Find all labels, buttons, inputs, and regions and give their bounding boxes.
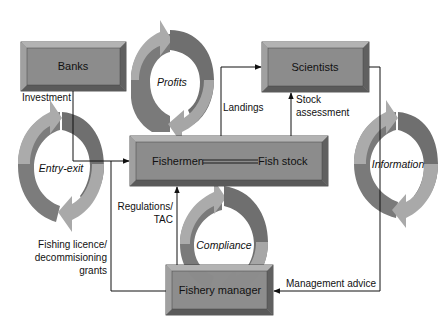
- edge-label-management-advice: Management advice: [286, 278, 376, 289]
- node-label-banks: Banks: [58, 60, 89, 72]
- edge-label-grants: grants: [79, 265, 107, 276]
- node-label-fishery-manager: Fishery manager: [179, 284, 262, 296]
- cycle-label-entry-exit: Entry-exit: [39, 162, 84, 174]
- node-fishery-manager: Fishery manager: [166, 265, 273, 315]
- edge-label-decommisioning: decommisioning: [35, 252, 107, 263]
- fishery-diagram: Profits Entry-exit Information Complianc…: [0, 0, 438, 331]
- node-label-fish-stock: Fish stock: [258, 155, 308, 167]
- edge-label-landings: Landings: [223, 102, 264, 113]
- cycle-label-compliance: Compliance: [196, 239, 252, 251]
- node-banks: Banks: [21, 42, 126, 91]
- node-label-scientists: Scientists: [291, 61, 339, 73]
- edge-label-licence: Fishing licence/: [38, 239, 107, 250]
- profits-cycle-icon: Profits: [131, 20, 214, 144]
- node-fishermen-fish-stock: Fishermen Fish stock: [130, 136, 328, 186]
- edge-label-stock: Stock: [296, 94, 322, 105]
- cycle-label-profits: Profits: [157, 76, 188, 88]
- edge-label-investment: Investment: [22, 92, 71, 103]
- node-scientists: Scientists: [262, 42, 369, 92]
- edge-label-regulations: Regulations/: [117, 201, 173, 212]
- entry-exit-cycle-icon: Entry-exit: [18, 100, 104, 232]
- information-cycle-icon: Information: [354, 100, 438, 228]
- edge-label-tac: TAC: [154, 214, 173, 225]
- node-label-fishermen: Fishermen: [152, 155, 204, 167]
- edge-label-assessment: assessment: [296, 107, 350, 118]
